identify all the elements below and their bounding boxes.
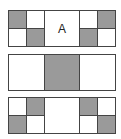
panel-3-right-bottom-left-cell — [79, 115, 98, 134]
panel-1-right-top-right-cell — [97, 10, 116, 29]
panel-1-right-top-left-cell — [79, 10, 98, 29]
panel-1: A — [8, 10, 114, 46]
panel-1-right-bottom-right-cell — [97, 28, 116, 47]
panel-1-label: A — [58, 23, 66, 35]
panel-2-center-cell — [44, 54, 80, 91]
panel-3-left-bottom-right-cell — [26, 115, 45, 134]
panel-2-right-cell — [79, 54, 116, 91]
panel-3-left-top-right-cell — [26, 97, 45, 116]
panel-1-left-bottom-left-cell — [8, 28, 27, 47]
panel-2-left-cell — [8, 54, 45, 91]
panel-1-left-bottom-right-cell — [26, 28, 45, 47]
panel-3-right-top-right-cell — [97, 97, 116, 116]
panel-3-center-cell — [44, 97, 80, 134]
panel-1-left-top-right-cell — [26, 10, 45, 29]
panel-3-right-bottom-right-cell — [97, 115, 116, 134]
panel-3-left-bottom-left-cell — [8, 115, 27, 134]
panel-2 — [8, 54, 114, 91]
panel-1-left-top-left-cell — [8, 10, 27, 29]
panel-3-left-top-left-cell — [8, 97, 27, 116]
panel-3 — [8, 97, 114, 134]
panel-1-right-bottom-left-cell — [79, 28, 98, 47]
panel-3-right-top-left-cell — [79, 97, 98, 116]
